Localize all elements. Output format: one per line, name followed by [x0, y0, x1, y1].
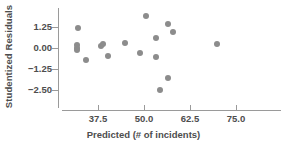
- y-tick-label: 1.25: [18, 22, 52, 32]
- x-axis-line: [62, 110, 281, 111]
- y-tick-label: −2.50: [18, 85, 52, 95]
- data-point: [74, 45, 80, 51]
- data-point: [75, 25, 81, 31]
- data-point: [83, 57, 89, 63]
- data-point: [100, 41, 106, 47]
- x-tick-label: 62.5: [170, 114, 210, 124]
- y-tick-label: −1.25: [18, 64, 52, 74]
- y-axis-title-text: Studentized Residuals: [4, 4, 15, 107]
- x-axis-title: Predicted (# of incidents): [0, 129, 287, 140]
- data-point: [122, 40, 128, 46]
- data-point: [105, 53, 111, 59]
- data-point: [165, 21, 171, 27]
- data-point: [137, 50, 143, 56]
- data-point: [153, 54, 159, 60]
- data-point: [143, 13, 149, 19]
- data-point: [74, 47, 80, 53]
- data-point: [170, 29, 176, 35]
- data-point: [98, 43, 104, 49]
- data-point: [74, 42, 80, 48]
- y-axis-tick-labels: 1.250.00−1.25−2.50: [16, 0, 52, 112]
- y-tick-label: 0.00: [18, 43, 52, 53]
- y-axis-line: [58, 8, 59, 108]
- data-point: [165, 75, 171, 81]
- x-tick-label: 50.0: [124, 114, 164, 124]
- data-point: [153, 35, 159, 41]
- data-point: [214, 41, 220, 47]
- x-tick-label: 37.5: [78, 114, 118, 124]
- x-tick-label: 75.0: [216, 114, 256, 124]
- data-point: [157, 87, 163, 93]
- scatter-plot-figure: Studentized Residuals 1.250.00−1.25−2.50…: [0, 0, 287, 153]
